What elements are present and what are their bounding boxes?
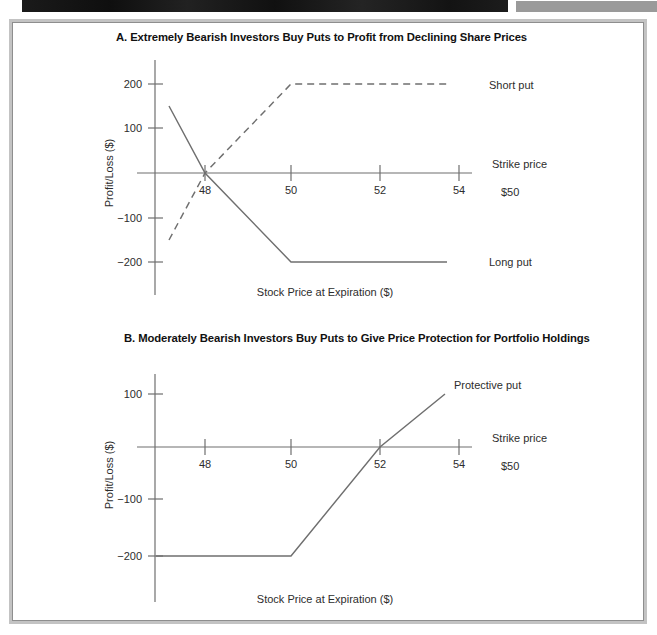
panel-b-ytick-label-neg200: −200 — [117, 550, 142, 562]
panel-a-svg: 200 100 −100 −200 48 50 52 54 Profit/Los… — [0, 48, 657, 318]
scan-top-band — [0, 0, 657, 13]
panel-b-title: B. Moderately Bearish Investors Buy Puts… — [124, 332, 590, 344]
panel-a-strike-price-value: $50 — [501, 186, 519, 198]
panel-b-xtick-label-50: 50 — [285, 458, 297, 470]
panel-a-title: A. Extremely Bearish Investors Buy Puts … — [116, 31, 527, 43]
panel-a-ytick-label-100: 100 — [124, 122, 142, 134]
panel-b-series-protective-put — [156, 394, 445, 556]
panel-a-label-short-put: Short put — [489, 79, 534, 91]
panel-b-ytick-label-neg100: −100 — [117, 493, 142, 505]
scan-dark-strip-texture — [22, 0, 508, 12]
panel-a-ytick-label-200: 200 — [124, 78, 142, 90]
panel-a-xtick-label-52: 52 — [374, 184, 386, 196]
panel-b-y-axis-label: Profit/Loss ($) — [103, 441, 115, 509]
panel-a-y-axis-label: Profit/Loss ($) — [103, 139, 115, 207]
panel-a-xtick-label-48: 48 — [199, 184, 211, 196]
panel-a-chart: 200 100 −100 −200 48 50 52 54 Profit/Los… — [0, 48, 657, 318]
panel-b-strike-price-value: $50 — [501, 460, 519, 472]
panel-b-strike-price-label: Strike price — [492, 432, 547, 444]
panel-b-xtick-label-52: 52 — [374, 458, 386, 470]
panel-b-xtick-label-54: 54 — [453, 458, 465, 470]
panel-a-xtick-label-54: 54 — [453, 184, 465, 196]
panel-b-ytick-label-100: 100 — [124, 388, 142, 400]
screenshot-canvas: A. Extremely Bearish Investors Buy Puts … — [0, 0, 657, 635]
panel-b-svg: 100 −100 −200 48 50 52 54 Profit/Loss ($… — [0, 350, 657, 620]
panel-b-label-protective-put: Protective put — [454, 379, 521, 391]
panel-a-xtick-label-50: 50 — [285, 184, 297, 196]
panel-a-x-axis-label: Stock Price at Expiration ($) — [257, 286, 393, 298]
panel-b-x-axis-label: Stock Price at Expiration ($) — [257, 593, 393, 605]
scan-grey-strip — [516, 1, 657, 12]
panel-a-label-long-put: Long put — [489, 256, 532, 268]
panel-b-xtick-label-48: 48 — [199, 458, 211, 470]
panel-a-series-short-put — [169, 84, 447, 240]
panel-b-chart: 100 −100 −200 48 50 52 54 Profit/Loss ($… — [0, 350, 657, 620]
panel-a-strike-price-label: Strike price — [492, 158, 547, 170]
panel-a-ytick-label-neg200: −200 — [117, 256, 142, 268]
panel-a-ytick-label-neg100: −100 — [117, 212, 142, 224]
